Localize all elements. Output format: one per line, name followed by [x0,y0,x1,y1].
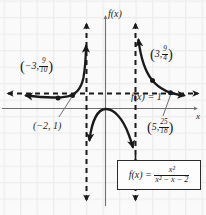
formula-lhs: f(x) = [129,169,152,180]
horizontal-asymptote-label: f(x) = 1 [131,92,162,102]
x-axis-label: x [196,112,200,121]
formula-fraction: x²x² − x − 2 [154,166,189,184]
formula-numerator: x² [154,166,189,175]
formula-box: f(x) = x²x² − x − 2 [117,160,201,190]
point-label-5: (5,2518) [147,119,173,135]
point-marker-5 [168,90,173,95]
point-label-3: (3,94) [150,46,173,62]
rational-function-figure: (−3,910) (3,94) (5,2518) (−2, 1) f(x) = … [0,0,206,215]
formula-text: f(x) = x²x² − x − 2 [129,166,190,184]
point-marker-neg3 [56,95,61,100]
point-marker-3 [150,78,155,83]
point-label-neg2: (−2, 1) [33,121,61,131]
formula-denominator: x² − x − 2 [154,175,189,185]
point-marker-neg2 [70,93,75,98]
y-axis-label: f(x) [108,9,122,19]
point-label-neg3: (−3,910) [20,58,53,74]
